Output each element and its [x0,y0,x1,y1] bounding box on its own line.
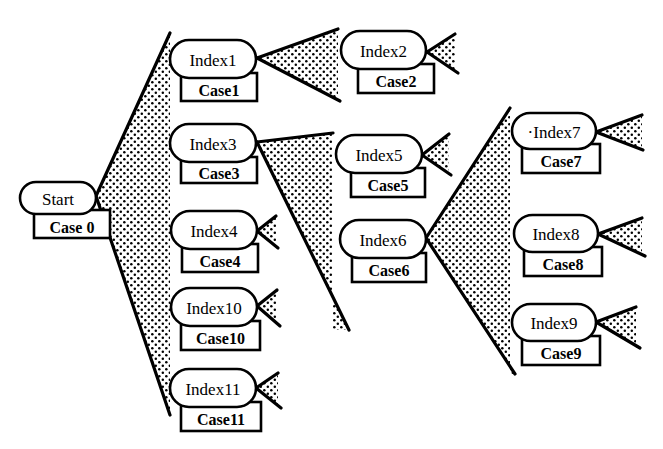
index-label: Index3 [189,135,236,154]
case-label: Case5 [368,177,409,194]
index-pill-index9: Index9 [512,304,596,341]
case-label: Case3 [199,165,240,182]
stub-index8 [598,218,645,256]
index-label: Index4 [190,222,238,241]
index-label: Index1 [189,51,236,70]
index-pill-index2: Index2 [341,31,426,69]
node-start[interactable]: Case 0Start [20,182,110,238]
index-pill-index3: Index3 [170,124,256,162]
index-pill-index10: Index10 [171,288,257,326]
decision-tree-diagram: Case 0StartCase1Index1Case2Index2Case3In… [0,0,663,449]
index-label: Start [42,190,74,209]
stub-index4 [257,216,278,248]
case-label: Case7 [541,153,582,170]
index-label: Index11 [185,380,240,399]
case-label: Case8 [543,256,584,273]
case-label: Case 0 [50,219,95,236]
node-index3[interactable]: Case3Index3 [170,124,257,183]
stipple-fill [422,134,451,175]
stub-index5 [422,134,451,175]
index-pill-index6: Index6 [340,220,426,258]
index-label: Index5 [355,146,402,165]
stipple-fill [596,115,643,150]
stub-index7 [596,115,643,150]
node-index7[interactable]: Case7·Index7 [512,113,600,173]
index-label: Index10 [186,299,242,318]
node-index11[interactable]: Case11Index11 [170,369,261,431]
index-pill-index1: Index1 [170,40,256,78]
index-pill-start: Start [20,182,96,214]
index-label: Index6 [359,231,406,250]
branch-fans [96,29,515,415]
case-label: Case9 [541,345,582,362]
case-label: Case6 [369,262,410,279]
case-label: Case11 [197,411,245,428]
index-pill-index11: Index11 [170,369,256,407]
index-pill-index8: Index8 [514,215,598,252]
node-index8[interactable]: Case8Index8 [514,215,602,276]
case-label: Case4 [200,253,241,270]
node-index4[interactable]: Case4Index4 [171,211,258,272]
index-label: Index2 [360,42,407,61]
node-index6[interactable]: Case6Index6 [340,220,426,282]
index-label: ·Index7 [528,123,581,142]
index-pill-index4: Index4 [171,211,257,249]
node-index10[interactable]: Case10Index10 [171,288,260,350]
stub-index9 [596,307,640,348]
fan-index1 [257,29,340,101]
index-label: Index8 [532,225,579,244]
index-label: Index9 [530,314,577,333]
case-label: Case1 [199,82,240,99]
case-label: Case2 [376,73,417,90]
index-pill-index5: Index5 [336,135,422,173]
node-index1[interactable]: Case1Index1 [170,40,257,101]
node-index2[interactable]: Case2Index2 [341,31,434,93]
node-index9[interactable]: Case9Index9 [512,304,600,365]
case-label: Case10 [196,330,245,347]
node-index5[interactable]: Case5Index5 [336,135,425,197]
index-pill-index7: ·Index7 [512,113,596,149]
